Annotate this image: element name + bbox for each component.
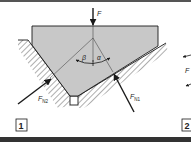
wedge-force-diagram: β α F FN2 FN1 1 F 2 [0, 0, 191, 142]
top-border [0, 0, 191, 2]
angle-beta-label: β [81, 54, 86, 62]
panel-1-number: 1 [19, 121, 24, 131]
force-fn2-label: FN2 [38, 95, 49, 104]
force-f-label: F [97, 10, 102, 17]
panel2-arrow-bottom [186, 84, 191, 86]
panel-2-number: 2 [185, 121, 190, 131]
panel2-force-label: F [185, 67, 190, 74]
angle-alpha-label: α [97, 54, 101, 61]
bottom-border [0, 137, 191, 142]
force-fn1-label: FN1 [130, 93, 141, 102]
groove-relief [70, 96, 78, 105]
panel2-arrow-top [183, 55, 191, 57]
